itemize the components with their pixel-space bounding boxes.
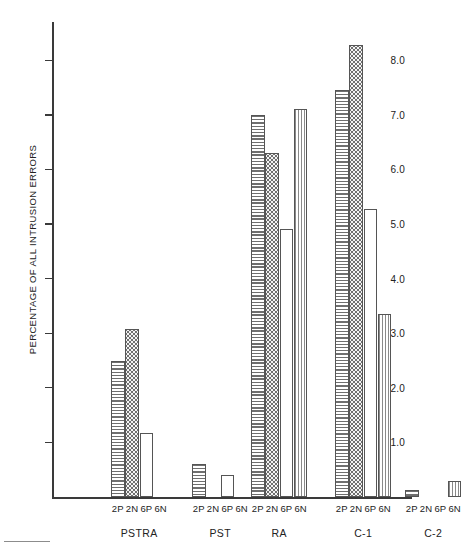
group-label-pst: PST bbox=[209, 527, 231, 539]
bar-c-1-2p bbox=[335, 90, 349, 497]
y-axis-tick-label: 8.0 bbox=[365, 55, 405, 66]
caption-rule bbox=[4, 541, 50, 542]
bar-pst-6p bbox=[221, 475, 235, 497]
x-axis-tick-label: 2N bbox=[420, 503, 432, 514]
bar-c-1-2n bbox=[349, 45, 363, 497]
group-label-ra: RA bbox=[271, 527, 286, 539]
bar-pstra-6p bbox=[140, 433, 154, 497]
x-axis-line bbox=[52, 497, 412, 499]
x-axis-tick-label: 6P bbox=[280, 503, 292, 514]
y-axis-tick bbox=[45, 60, 52, 61]
x-axis-tick-label: 2P bbox=[252, 503, 264, 514]
y-axis-tick-label: 7.0 bbox=[365, 109, 405, 120]
y-axis-tick bbox=[45, 387, 52, 388]
bar-pstra-2n bbox=[125, 329, 139, 497]
x-axis-tick-label: 6P bbox=[221, 503, 233, 514]
group-label-pstra: PSTRA bbox=[121, 527, 158, 539]
x-axis-tick-label: 2P bbox=[193, 503, 205, 514]
y-axis-line bbox=[52, 22, 54, 497]
x-axis-tick-label: 6N bbox=[378, 503, 390, 514]
x-axis-tick-label: 2N bbox=[126, 503, 138, 514]
x-axis-tick-label: 6N bbox=[154, 503, 166, 514]
x-axis-tick-label: 2P bbox=[406, 503, 418, 514]
x-axis-tick-label: 2N bbox=[266, 503, 278, 514]
x-axis-tick-label: 2P bbox=[336, 503, 348, 514]
x-axis-tick-label: 6P bbox=[140, 503, 152, 514]
y-axis-title: PERCENTAGE OF ALL INTRUSION ERRORS bbox=[27, 100, 38, 400]
bar-c-1-6p bbox=[364, 209, 378, 497]
group-label-c-1: C-1 bbox=[354, 527, 372, 539]
y-axis-tick bbox=[45, 223, 52, 224]
y-axis-tick bbox=[45, 114, 52, 115]
bar-ra-2n bbox=[265, 153, 279, 497]
y-axis-tick bbox=[45, 333, 52, 334]
x-axis-tick-label: 2P bbox=[112, 503, 124, 514]
bar-ra-2p bbox=[251, 115, 265, 497]
bar-c-2-2p bbox=[405, 490, 419, 497]
plot-area: 1.02.03.04.05.06.07.08.0 bbox=[52, 22, 416, 497]
x-axis-tick-label: 6P bbox=[434, 503, 446, 514]
bar-c-1-6n bbox=[378, 314, 392, 497]
x-axis-tick-label: 6N bbox=[294, 503, 306, 514]
x-axis-tick-label: 6P bbox=[364, 503, 376, 514]
bar-ra-6p bbox=[280, 229, 294, 497]
y-axis-tick-label: 6.0 bbox=[365, 164, 405, 175]
x-axis-tick-label: 2N bbox=[207, 503, 219, 514]
x-axis-tick-label: 2N bbox=[350, 503, 362, 514]
bar-pstra-2p bbox=[111, 361, 125, 497]
group-label-c-2: C-2 bbox=[424, 527, 442, 539]
y-axis-tick bbox=[45, 442, 52, 443]
y-axis-tick bbox=[45, 169, 52, 170]
bar-ra-6n bbox=[294, 109, 308, 497]
y-axis-tick bbox=[45, 278, 52, 279]
bar-c-2-6n bbox=[448, 481, 461, 497]
x-axis-tick-label: 6N bbox=[448, 503, 460, 514]
x-axis-tick-label: 6N bbox=[235, 503, 247, 514]
bar-pst-2p bbox=[192, 464, 206, 497]
